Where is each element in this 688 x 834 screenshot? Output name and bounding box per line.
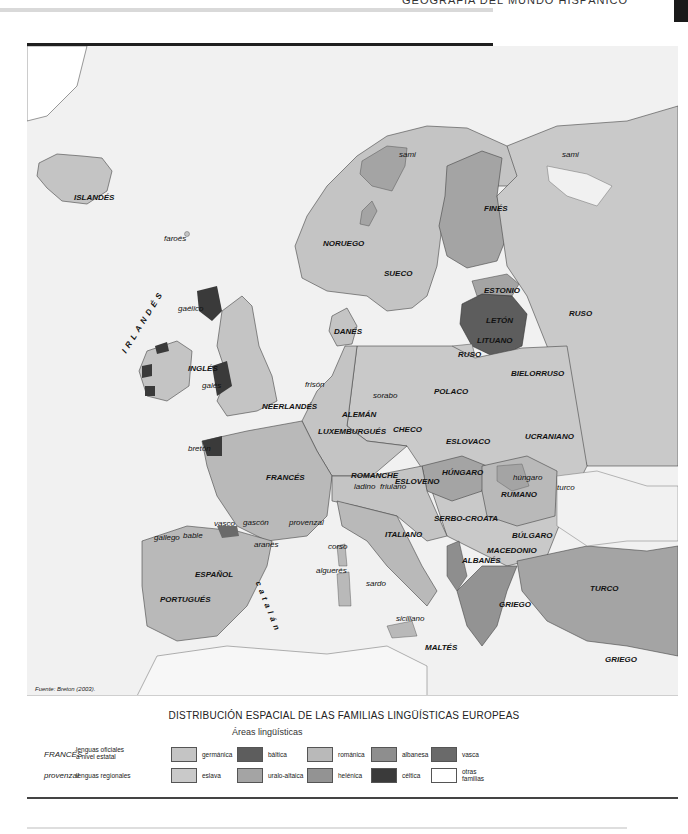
map-label-danés: DANÉS — [334, 327, 362, 336]
map-label-faroés: faroés — [164, 234, 186, 243]
swatch-label-germanica: germánica — [202, 751, 232, 758]
legend-type-regional-sample: provenzal — [44, 771, 79, 780]
map-label-francés: FRANCÉS — [266, 473, 305, 482]
map-source: Fuente: Breton (2003). — [35, 686, 95, 692]
swatch-label-albanesa: albanesa — [402, 751, 428, 758]
map-label-gallego: gallego — [154, 533, 180, 542]
chapter-tab — [674, 0, 688, 22]
map-label-alguerés: alguerés — [316, 566, 347, 575]
map-label-maltés: MALTÉS — [425, 643, 457, 652]
map-label-aranés: aranés — [254, 540, 278, 549]
map-label-romanche: ROMANCHE — [351, 471, 398, 480]
swatch-label-otras-1: otras — [462, 768, 476, 775]
europe-language-map — [27, 46, 678, 696]
swatch-label-celtica: céltica — [402, 772, 420, 779]
swatch-romanica — [307, 747, 333, 762]
map-label-islandés: ISLANDÉS — [74, 193, 114, 202]
legend-title: DISTRIBUCIÓN ESPACIAL DE LAS FAMILIAS LI… — [0, 710, 688, 721]
swatch-label-helenica: helénica — [338, 772, 362, 779]
page-bottom-rule — [27, 827, 627, 829]
map-label-noruego: NORUEGO — [323, 239, 364, 248]
map-label-gascón: gascón — [243, 518, 269, 527]
swatch-celtica — [371, 768, 397, 783]
map-label-ladino: ladino — [354, 482, 375, 491]
map-label-friulano: friulano — [380, 482, 406, 491]
map-label-húngaro: húngaro — [513, 473, 542, 482]
map-label-finés: FINÉS — [484, 204, 508, 213]
map-label-luxemburgués: LUXEMBURGUÉS — [318, 427, 386, 436]
map-label-alemán: ALEMÁN — [342, 410, 376, 419]
map-label-lituano: LITUANO — [477, 336, 513, 345]
swatch-label-eslava: eslava — [202, 772, 221, 779]
map-label-español: ESPAÑOL — [195, 570, 233, 579]
swatch-label-baltica: báltica — [268, 751, 287, 758]
map-label-gaélico: gaélico — [178, 304, 203, 313]
map-label-inglés: INGLÉS — [188, 364, 218, 373]
map-label-corso: corso — [328, 542, 348, 551]
map-label-búlgaro: BÚLGARO — [512, 531, 552, 540]
map-label-sardo: sardo — [366, 579, 386, 588]
swatch-label-vasca: vasca — [462, 751, 479, 758]
map-label-bielorruso: BIELORRUSO — [511, 369, 564, 378]
map-label-bretón: bretón — [188, 444, 211, 453]
swatch-label-romanica: románica — [338, 751, 365, 758]
map-label-provenzal: provenzal — [289, 518, 324, 527]
swatch-uralo-altaica — [237, 768, 263, 783]
map-label-galés: galés — [202, 381, 221, 390]
swatch-otras-familias — [431, 768, 457, 783]
map-label-siciliano: siciliano — [396, 614, 424, 623]
map-frame-bottom — [27, 695, 678, 696]
map-label-húngaro: HÚNGARO — [442, 468, 483, 477]
map-label-frisón: frisón — [305, 380, 325, 389]
swatch-eslava — [171, 768, 197, 783]
map-label-neerlandés: NEERLANDÉS — [262, 402, 317, 411]
map-label-bable: bable — [183, 531, 203, 540]
legend-type-regional-desc: lenguas regionales — [76, 772, 131, 779]
map-label-turco: turco — [557, 483, 575, 492]
legend-type-official-desc-2: a nivel estatal — [76, 753, 116, 760]
map-label-griego: GRIEGO — [499, 600, 531, 609]
map-label-rumano: RUMANO — [501, 490, 537, 499]
legend-subtitle: Áreas lingüísticas — [232, 727, 303, 737]
map-label-macedonio: MACEDONIO — [487, 546, 537, 555]
map-label-ruso: RUSO — [458, 350, 481, 359]
map-label-eslovaco: ESLOVACO — [446, 437, 490, 446]
map-label-serbo-croata: SERBO-CROATA — [434, 514, 498, 523]
swatch-germanica — [171, 747, 197, 762]
swatch-baltica — [237, 747, 263, 762]
map-label-albanés: ALBANÉS — [462, 556, 501, 565]
map-label-sueco: SUECO — [384, 269, 412, 278]
map-label-sami: sami — [562, 150, 579, 159]
map-label-estonio: ESTONIO — [484, 286, 520, 295]
map-label-turco: TURCO — [590, 584, 618, 593]
map-label-letón: LETÓN — [486, 316, 513, 325]
header-title: GEOGRAFÍA DEL MUNDO HISPÁNICO — [402, 0, 628, 6]
map-label-ruso: RUSO — [569, 309, 592, 318]
swatch-vasca — [431, 747, 457, 762]
map-label-griego: GRIEGO — [605, 655, 637, 664]
legend-type-official-desc-1: lenguas oficiales — [76, 746, 124, 753]
legend-frame-bottom — [27, 797, 678, 799]
map-label-ucraniano: UCRANIANO — [525, 432, 574, 441]
header-rule — [0, 8, 493, 12]
map-label-sami: sami — [399, 150, 416, 159]
swatch-label-uralo-altaica: uralo-altaica — [268, 772, 303, 779]
map-label-vasco: vasco — [214, 519, 235, 528]
map-label-sorabo: sorabo — [373, 391, 397, 400]
map-label-portugués: PORTUGUÉS — [160, 595, 211, 604]
swatch-helenica — [307, 768, 333, 783]
swatch-label-otras-2: familias — [462, 775, 484, 782]
map-label-polaco: POLACO — [434, 387, 468, 396]
swatch-albanesa — [371, 747, 397, 762]
map-label-italiano: ITALIANO — [385, 530, 422, 539]
map-label-checo: CHECO — [393, 425, 422, 434]
